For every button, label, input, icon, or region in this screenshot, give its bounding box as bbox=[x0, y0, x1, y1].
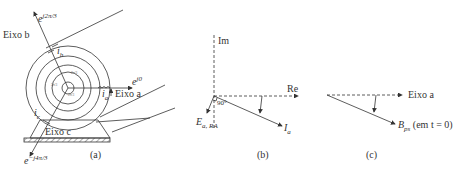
label-e-b: ej2π/3 bbox=[38, 13, 57, 24]
label-e-j0: ej0 bbox=[132, 76, 142, 87]
label-angle-3: 2π/3 bbox=[68, 94, 74, 98]
label-i-b: ib bbox=[57, 46, 63, 59]
label-b-ps: Bps (em t = 0) bbox=[398, 120, 453, 133]
label-re: Re bbox=[287, 84, 298, 94]
caption-a: (a) bbox=[90, 150, 101, 160]
label-i-c: ic bbox=[34, 108, 40, 121]
panel-c-field bbox=[327, 95, 402, 124]
label-angle-1: 2π/3 bbox=[71, 72, 77, 76]
label-e-ara: Ea, RA bbox=[196, 117, 218, 130]
caption-c: (c) bbox=[366, 150, 377, 160]
label-eixo-c: Eixo c bbox=[45, 127, 71, 137]
label-e-c: e−j4π/3 bbox=[24, 155, 48, 166]
label-eixo-a: Eixo a bbox=[115, 89, 141, 99]
caption-b: (b) bbox=[257, 150, 269, 160]
label-i-a-phasor: Ia bbox=[284, 123, 291, 136]
label-angle-2: 2π/3 bbox=[51, 84, 57, 88]
label-i-a: ia bbox=[102, 89, 108, 102]
label-90deg: 90° bbox=[217, 100, 227, 107]
label-im: Im bbox=[218, 36, 229, 46]
label-eixo-a-c: Eixo a bbox=[408, 90, 434, 100]
diagram-canvas bbox=[0, 0, 465, 173]
label-eixo-b: Eixo b bbox=[3, 30, 29, 40]
panel-b-phasors bbox=[207, 35, 298, 128]
